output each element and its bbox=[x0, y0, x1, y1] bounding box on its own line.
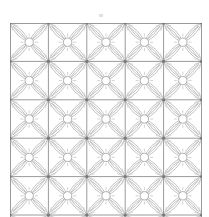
top-mark bbox=[99, 2, 103, 5]
geometric-tile-pattern bbox=[10, 23, 202, 217]
pattern-canvas bbox=[10, 23, 202, 217]
